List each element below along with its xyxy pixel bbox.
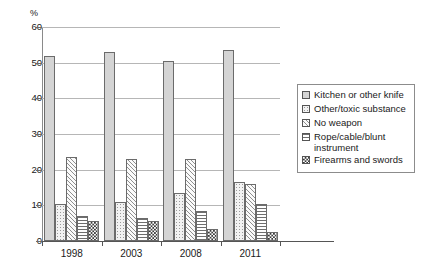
x-tick-mark <box>280 242 281 246</box>
bar <box>44 56 55 241</box>
legend-label: No weapon <box>314 117 362 128</box>
legend-swatch-dotted-icon <box>302 105 310 113</box>
bar <box>223 50 234 241</box>
bar <box>163 61 174 241</box>
x-tick-mark <box>221 242 222 246</box>
legend-swatch-checker-icon <box>302 156 310 164</box>
legend-item[interactable]: Rope/cable/blunt instrument <box>302 131 410 153</box>
x-tick-label: 1998 <box>42 248 102 260</box>
bar-chart: % 0102030405060 1998200320082011 Kitchen… <box>0 0 422 280</box>
bar <box>245 184 256 241</box>
bar <box>115 202 126 241</box>
bar <box>126 159 137 241</box>
x-tick-mark <box>102 242 103 246</box>
bar <box>256 204 267 241</box>
legend-item[interactable]: Kitchen or other knife <box>302 89 410 102</box>
bar <box>55 204 66 241</box>
chart-legend: Kitchen or other knife Other/toxic subst… <box>297 84 415 173</box>
bar <box>77 216 88 241</box>
bar <box>267 232 278 241</box>
bar <box>185 159 196 241</box>
bar <box>234 182 245 241</box>
legend-label: Firearms and swords <box>314 154 403 165</box>
bar <box>104 52 115 241</box>
bar <box>174 193 185 241</box>
bar-group <box>104 27 159 241</box>
bar-group <box>163 27 218 241</box>
bar <box>137 218 148 241</box>
x-tick-label: 2003 <box>101 248 161 260</box>
legend-swatch-solid-icon <box>302 91 310 99</box>
bar <box>207 229 218 241</box>
bar <box>66 157 77 241</box>
bar <box>196 211 207 241</box>
bar-group <box>44 27 99 241</box>
legend-item[interactable]: Firearms and swords <box>302 154 410 167</box>
x-tick-mark <box>42 242 43 246</box>
legend-label: Other/toxic substance <box>314 103 406 114</box>
legend-item[interactable]: Other/toxic substance <box>302 103 410 116</box>
legend-swatch-diagonal-icon <box>302 119 310 127</box>
x-tick-label: 2008 <box>161 248 221 260</box>
x-tick-mark <box>161 242 162 246</box>
legend-label: Kitchen or other knife <box>314 89 404 100</box>
bar <box>88 221 99 241</box>
x-tick-label: 2011 <box>220 248 280 260</box>
plot-area <box>42 27 280 241</box>
bar-group <box>223 27 278 241</box>
y-axis-ticks: 0102030405060 <box>0 0 42 280</box>
legend-label: Rope/cable/blunt instrument <box>314 131 385 153</box>
legend-item[interactable]: No weapon <box>302 117 410 130</box>
legend-swatch-horizontal-icon <box>302 133 310 141</box>
bar <box>148 221 159 241</box>
